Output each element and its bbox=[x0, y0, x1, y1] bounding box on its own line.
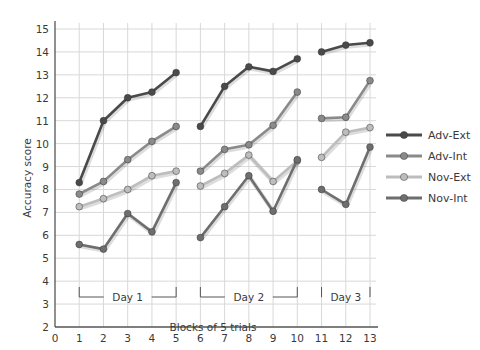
legend-item-nov-int: Nov-Int bbox=[386, 192, 468, 205]
legend: Adv-ExtAdv-IntNov-ExtNov-Int bbox=[386, 129, 472, 205]
x-tick-label: 4 bbox=[149, 332, 156, 344]
data-point bbox=[197, 234, 204, 241]
legend-item-adv-int: Adv-Int bbox=[386, 150, 468, 163]
data-point bbox=[124, 156, 131, 163]
data-point bbox=[294, 156, 301, 163]
x-tick-label: 7 bbox=[221, 332, 228, 344]
data-point bbox=[197, 168, 204, 175]
data-point bbox=[221, 203, 228, 210]
y-tick-label: 12 bbox=[36, 92, 49, 104]
data-point bbox=[124, 210, 131, 217]
data-point bbox=[173, 168, 180, 175]
data-point bbox=[76, 179, 83, 186]
x-tick-label: 12 bbox=[339, 332, 352, 344]
data-point bbox=[367, 39, 374, 46]
x-axis-label: Blocks of 5 trials bbox=[170, 321, 257, 333]
data-point bbox=[149, 172, 156, 179]
x-tick-label: 5 bbox=[173, 332, 180, 344]
data-point bbox=[342, 114, 349, 121]
grid bbox=[55, 23, 376, 327]
y-tick-label: 2 bbox=[42, 321, 49, 333]
day-label: Day 1 bbox=[112, 291, 143, 303]
data-point bbox=[173, 123, 180, 130]
y-tick-label: 4 bbox=[42, 275, 49, 287]
data-point bbox=[221, 146, 228, 153]
data-point bbox=[270, 68, 277, 75]
x-tick-label: 8 bbox=[246, 332, 253, 344]
y-tick-label: 10 bbox=[36, 138, 49, 150]
data-point bbox=[76, 241, 83, 248]
data-point bbox=[270, 178, 277, 185]
x-tick-label: 1 bbox=[76, 332, 83, 344]
x-tick-label: 10 bbox=[291, 332, 304, 344]
data-point bbox=[294, 89, 301, 96]
data-point bbox=[197, 123, 204, 130]
y-tick-label: 6 bbox=[42, 229, 49, 241]
x-tick-label: 6 bbox=[197, 332, 204, 344]
legend-item-adv-ext: Adv-Ext bbox=[386, 129, 471, 142]
data-point bbox=[76, 203, 83, 210]
data-point bbox=[100, 246, 107, 253]
data-point bbox=[76, 191, 83, 198]
data-point bbox=[367, 77, 374, 84]
data-point bbox=[342, 42, 349, 49]
x-tick-label: 3 bbox=[124, 332, 131, 344]
data-point bbox=[245, 152, 252, 159]
y-tick-label: 14 bbox=[36, 46, 50, 58]
data-point bbox=[173, 179, 180, 186]
data-point bbox=[197, 183, 204, 190]
day-label: Day 3 bbox=[330, 291, 361, 303]
data-point bbox=[149, 138, 156, 145]
legend-label: Adv-Int bbox=[428, 150, 468, 163]
data-point bbox=[342, 129, 349, 136]
y-axis-label: Accuracy score bbox=[21, 138, 33, 218]
data-point bbox=[245, 172, 252, 179]
y-tick-label: 5 bbox=[42, 252, 49, 264]
data-point bbox=[124, 94, 131, 101]
line-chart: 23456789101112131415012345678910111213 D… bbox=[0, 0, 480, 350]
data-point bbox=[318, 154, 325, 161]
data-point bbox=[342, 201, 349, 208]
x-tick-label: 11 bbox=[315, 332, 328, 344]
data-point bbox=[318, 186, 325, 193]
data-point bbox=[270, 208, 277, 215]
legend-item-nov-ext: Nov-Ext bbox=[386, 171, 472, 184]
legend-label: Nov-Ext bbox=[428, 171, 472, 184]
data-point bbox=[245, 63, 252, 70]
data-point bbox=[149, 228, 156, 235]
data-point bbox=[100, 178, 107, 185]
data-point bbox=[270, 122, 277, 129]
day-label: Day 2 bbox=[233, 291, 264, 303]
legend-label: Adv-Ext bbox=[428, 129, 471, 142]
y-tick-label: 7 bbox=[42, 206, 49, 218]
x-tick-label: 13 bbox=[363, 332, 376, 344]
legend-label: Nov-Int bbox=[428, 192, 468, 205]
x-tick-label: 0 bbox=[52, 332, 59, 344]
data-point bbox=[100, 117, 107, 124]
x-tick-label: 9 bbox=[270, 332, 277, 344]
y-tick-label: 9 bbox=[42, 161, 49, 173]
data-point bbox=[221, 83, 228, 90]
y-tick-label: 8 bbox=[42, 183, 49, 195]
data-point bbox=[318, 115, 325, 122]
data-point bbox=[367, 144, 374, 151]
y-tick-label: 15 bbox=[36, 23, 49, 35]
data-point bbox=[124, 186, 131, 193]
data-point bbox=[149, 89, 156, 96]
y-tick-label: 11 bbox=[36, 115, 49, 127]
data-point bbox=[100, 195, 107, 202]
data-point bbox=[294, 55, 301, 62]
data-point bbox=[221, 170, 228, 177]
data-point bbox=[173, 69, 180, 76]
y-tick-label: 13 bbox=[36, 69, 49, 81]
data-point bbox=[318, 49, 325, 56]
data-point bbox=[245, 141, 252, 148]
y-tick-label: 3 bbox=[42, 298, 49, 310]
x-tick-label: 2 bbox=[100, 332, 107, 344]
data-point bbox=[367, 124, 374, 131]
